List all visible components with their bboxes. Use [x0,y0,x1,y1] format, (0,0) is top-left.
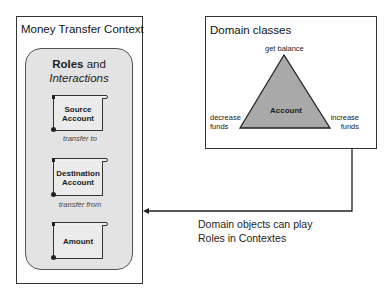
diagram-graphics [0,0,385,298]
connector-line [147,149,352,211]
operation-get-balance: get balance [265,44,304,53]
connector-note: Domain objects can play Roles in Context… [198,218,312,245]
account-class-label: Account [270,106,302,115]
decrease-line1: decrease [210,113,241,122]
decrease-line2: funds [210,122,241,131]
increase-line1: increase [328,113,359,122]
operation-decrease-funds: decrease funds [210,113,241,131]
arrowhead-left-icon [143,208,149,214]
account-triangle-icon [240,55,330,128]
note-line1: Domain objects can play [198,218,312,232]
increase-line2: funds [328,122,359,131]
operation-increase-funds: increase funds [328,113,359,131]
note-line2: Roles in Contextes [198,232,312,246]
